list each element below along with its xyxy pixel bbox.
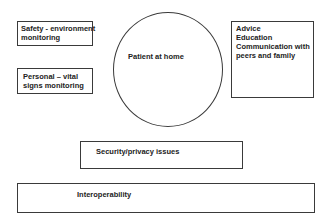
interoperability-box: Interoperability <box>17 183 315 213</box>
patient-at-home-circle <box>113 12 223 127</box>
box-text-line: monitoring <box>21 33 89 42</box>
personal-vital-signs-box: Personal – vital signs monitoring <box>17 68 93 94</box>
security-privacy-box: Security/privacy issues <box>80 141 243 169</box>
box-text-line: Personal – vital <box>23 72 87 81</box>
box-text-line: Security/privacy issues <box>96 147 242 156</box>
box-text-line: Advice <box>236 24 309 33</box>
box-text-line: Safety - environment <box>21 24 89 33</box>
box-text-line: signs monitoring <box>23 81 87 90</box>
advice-education-box: Advice Education Communication with peer… <box>231 21 314 98</box>
safety-monitoring-box: Safety - environment monitoring <box>17 21 93 46</box>
patient-at-home-label: Patient at home <box>128 52 184 61</box>
box-text-line: Communication with <box>236 42 309 51</box>
box-text-line: Education <box>236 33 309 42</box>
box-text-line: Interoperability <box>77 190 314 199</box>
box-text-line: peers and family <box>236 51 309 60</box>
